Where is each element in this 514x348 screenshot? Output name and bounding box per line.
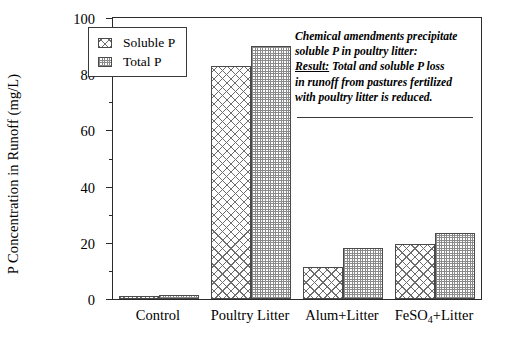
y-tick-minor: [109, 159, 113, 160]
y-tick-minor: [109, 102, 113, 103]
crosshatch-swatch: [98, 38, 112, 48]
y-tick-major: 40: [106, 187, 113, 188]
bar-control-soluble-p: [119, 296, 159, 299]
y-tick-major: 100: [106, 18, 113, 19]
annotation-line-1: Chemical amendments precipitate: [295, 30, 457, 43]
legend-label-soluble-p: Soluble P: [123, 35, 175, 51]
annotation-line-3: Total and soluble P loss: [329, 60, 444, 73]
dotted-swatch: [98, 57, 112, 67]
bar-feso4-litter-total-p: [435, 233, 475, 299]
annotation-line-4: in runoff from pastures fertilized: [295, 76, 452, 89]
bar-poultry-litter-total-p: [251, 46, 291, 299]
bar-feso4-litter-soluble-p: [395, 244, 435, 299]
x-category-label: Alum+Litter: [305, 307, 378, 324]
y-tick-major: 60: [106, 130, 113, 131]
bar-control-total-p: [159, 295, 199, 299]
y-axis-title: P Concentration in Runoff (mg/L): [0, 0, 26, 348]
annotation-line-2: soluble P in poultry litter:: [295, 45, 418, 58]
y-tick-major: 0: [106, 299, 113, 300]
y-tick-label: 100: [73, 11, 95, 28]
y-tick-label: 0: [88, 292, 95, 309]
y-tick-label: 60: [81, 123, 96, 140]
bar-alum-litter-soluble-p: [303, 267, 343, 299]
legend-item-total-p: Total P: [98, 52, 186, 71]
y-tick-minor: [109, 215, 113, 216]
y-tick-minor: [109, 271, 113, 272]
bar-alum-litter-total-p: [343, 248, 383, 299]
legend-label-total-p: Total P: [123, 54, 161, 70]
chart-legend: Soluble P Total P: [88, 27, 187, 77]
chart-annotation: Chemical amendments precipitate soluble …: [295, 29, 475, 105]
bar-poultry-litter-soluble-p: [211, 66, 251, 299]
chart-screenshot: P Concentration in Runoff (mg/L) 0204060…: [0, 0, 514, 348]
x-category-label: Poultry Litter: [211, 307, 290, 324]
y-tick-label: 40: [81, 179, 96, 196]
annotation-line-5: with poultry litter is reduced.: [295, 91, 433, 104]
annotation-rule: [297, 117, 473, 118]
x-category-label: Control: [136, 307, 180, 324]
y-tick-major: 20: [106, 243, 113, 244]
x-category-label: FeSO4+Litter: [395, 307, 473, 324]
y-tick-label: 20: [81, 235, 96, 252]
annotation-result-label: Result:: [295, 60, 329, 73]
legend-item-soluble-p: Soluble P: [98, 33, 186, 52]
